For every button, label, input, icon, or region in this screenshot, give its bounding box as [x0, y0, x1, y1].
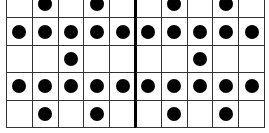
grid-cell	[213, 101, 239, 128]
left-grid	[6, 0, 136, 128]
dot-icon	[245, 79, 259, 93]
grid-cell	[136, 73, 162, 100]
dot-icon	[90, 107, 104, 121]
dot-icon	[38, 107, 52, 121]
grid-cell	[110, 73, 136, 100]
grid-cell	[110, 46, 136, 73]
grid-cell	[84, 101, 110, 128]
grid-cell	[162, 0, 188, 18]
dot-icon	[12, 25, 26, 39]
dot-icon	[38, 79, 52, 93]
dot-icon	[38, 25, 52, 39]
dot-icon	[64, 25, 78, 39]
dot-icon	[193, 25, 207, 39]
dot-icon	[90, 25, 104, 39]
grid-cell	[110, 18, 136, 45]
grid-cell	[33, 73, 59, 100]
grid-cell	[239, 73, 265, 100]
dot-icon	[193, 52, 207, 66]
grid-cell	[188, 0, 214, 18]
grid-cell	[7, 46, 33, 73]
dot-icon	[12, 79, 26, 93]
grid-cell	[188, 46, 214, 73]
dot-icon	[116, 25, 130, 39]
grid-cell	[84, 18, 110, 45]
grid-cell	[7, 18, 33, 45]
grid-cell	[162, 18, 188, 45]
grid-cell	[136, 101, 162, 128]
grid-cell	[162, 101, 188, 128]
grid-cell	[162, 73, 188, 100]
grid-cell	[239, 18, 265, 45]
grid-cell	[213, 73, 239, 100]
grid-cell	[136, 46, 162, 73]
grid-cell	[7, 101, 33, 128]
dot-icon	[219, 25, 233, 39]
dot-icon	[90, 79, 104, 93]
grid-cell	[162, 46, 188, 73]
grid-cell	[213, 18, 239, 45]
grid-cell	[59, 101, 85, 128]
dot-icon	[167, 79, 181, 93]
grid-cell	[33, 18, 59, 45]
dot-icon	[64, 79, 78, 93]
grid-cell	[84, 73, 110, 100]
grid-cell	[84, 0, 110, 18]
grid-cell	[33, 46, 59, 73]
dot-grid-board	[6, 0, 265, 128]
dot-icon	[193, 79, 207, 93]
grid-cell	[188, 101, 214, 128]
grid-cell	[110, 101, 136, 128]
dot-icon	[116, 79, 130, 93]
grid-cell	[239, 101, 265, 128]
dot-icon	[38, 0, 52, 11]
dot-icon	[219, 107, 233, 121]
grid-cell	[213, 46, 239, 73]
grid-cell	[188, 73, 214, 100]
grid-cell	[136, 0, 162, 18]
grid-cell	[33, 101, 59, 128]
grid-cell	[59, 73, 85, 100]
grid-cell	[84, 46, 110, 73]
dot-icon	[219, 0, 233, 11]
grid-cell	[59, 18, 85, 45]
dot-icon	[167, 25, 181, 39]
grid-cell	[7, 0, 33, 18]
grid-cell	[110, 0, 136, 18]
dot-icon	[90, 0, 104, 11]
dot-icon	[245, 25, 259, 39]
grid-cell	[59, 46, 85, 73]
right-grid	[136, 0, 265, 128]
grid-cell	[136, 18, 162, 45]
dot-icon	[167, 0, 181, 11]
grid-cell	[188, 18, 214, 45]
grid-cell	[33, 0, 59, 18]
dot-icon	[219, 79, 233, 93]
dot-icon	[141, 79, 155, 93]
grid-cell	[7, 73, 33, 100]
grid-cell	[59, 0, 85, 18]
grid-cell	[239, 0, 265, 18]
dot-icon	[64, 52, 78, 66]
dot-icon	[167, 107, 181, 121]
grid-cell	[239, 46, 265, 73]
dot-icon	[141, 25, 155, 39]
grid-cell	[213, 0, 239, 18]
